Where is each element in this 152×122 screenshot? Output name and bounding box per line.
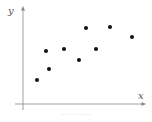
data-point	[108, 25, 112, 29]
data-point	[94, 47, 98, 51]
scatter-plot: y x	[0, 0, 152, 122]
data-point	[35, 78, 39, 82]
figure-caption: ··· ····· ······	[0, 111, 152, 117]
x-axis-label: x	[138, 90, 144, 101]
data-point	[62, 47, 66, 51]
data-point	[77, 58, 81, 62]
y-axis-arrow-icon	[21, 6, 25, 11]
axes: y x	[7, 5, 146, 110]
data-point	[130, 35, 134, 39]
y-axis-label: y	[7, 5, 14, 16]
data-point	[44, 49, 48, 53]
x-axis-arrow-icon	[142, 102, 147, 106]
data-point	[84, 26, 88, 30]
data-point	[47, 67, 51, 71]
data-points	[35, 25, 134, 82]
